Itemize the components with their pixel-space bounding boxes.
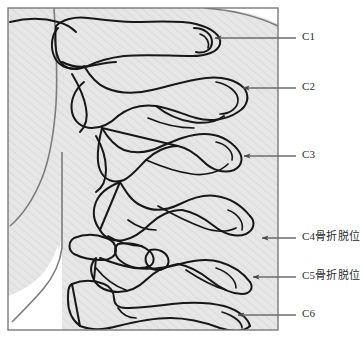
label-c6: C6 — [302, 308, 315, 319]
cervical-spine-figure: C1 C2 C3 C4骨折脱位 C5骨折脱位 C6 — [0, 0, 363, 340]
label-c5-fracture-dislocation: C5骨折脱位 — [302, 270, 360, 281]
spine-illustration-svg — [0, 0, 363, 340]
label-c4-fracture-dislocation: C4骨折脱位 — [302, 231, 360, 242]
label-c3: C3 — [302, 149, 315, 160]
illustration-panel — [8, 8, 278, 331]
label-c1: C1 — [302, 31, 315, 42]
label-c2: C2 — [302, 81, 315, 92]
